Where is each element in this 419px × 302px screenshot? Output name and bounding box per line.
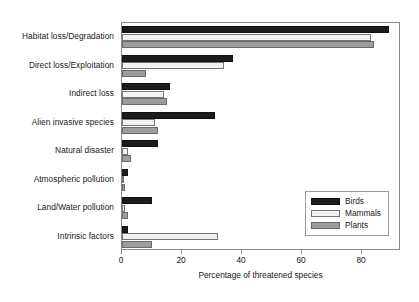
bar-mammals — [122, 148, 128, 155]
x-axis-tick-labels: 020406080 — [121, 255, 400, 267]
bar-birds — [122, 140, 158, 147]
bar-mammals — [122, 91, 164, 98]
bar-plants — [122, 127, 158, 134]
legend-swatch-birds-icon — [311, 198, 340, 205]
category-label: Indirect loss — [69, 89, 114, 98]
x-tick — [181, 250, 182, 254]
legend-item-birds: Birds — [311, 196, 383, 207]
legend-item-plants: Plants — [311, 220, 383, 231]
category-label: Land/Water pollution — [37, 203, 114, 212]
bar-plants — [122, 41, 374, 48]
x-tick-label: 20 — [176, 255, 185, 265]
legend-label-plants: Plants — [345, 221, 368, 230]
bar-plants — [122, 184, 125, 191]
bar-birds — [122, 55, 233, 62]
chart-legend: Birds Mammals Plants — [305, 191, 389, 236]
x-tick-label: 60 — [296, 255, 305, 265]
x-tick — [121, 250, 122, 254]
category-label: Natural disaster — [55, 146, 114, 155]
x-tick — [361, 250, 362, 254]
category-label: Alien invasive species — [32, 117, 114, 126]
x-tick-label: 0 — [119, 255, 124, 265]
bar-mammals — [122, 62, 224, 69]
bar-mammals — [122, 119, 155, 126]
bar-mammals — [122, 233, 218, 240]
legend-item-mammals: Mammals — [311, 208, 383, 219]
bar-birds — [122, 226, 128, 233]
bar-plants — [122, 70, 146, 77]
bar-birds — [122, 169, 128, 176]
legend-swatch-plants-icon — [311, 222, 340, 229]
bar-mammals — [122, 176, 124, 183]
bar-birds — [122, 83, 170, 90]
bar-plants — [122, 212, 128, 219]
x-tick-label: 40 — [236, 255, 245, 265]
x-tick-label: 80 — [356, 255, 365, 265]
x-tick — [241, 250, 242, 254]
bar-plants — [122, 241, 152, 248]
bar-birds — [122, 197, 152, 204]
legend-swatch-mammals-icon — [311, 210, 340, 217]
bar-plants — [122, 98, 167, 105]
bar-mammals — [122, 34, 371, 41]
legend-label-mammals: Mammals — [345, 209, 381, 218]
x-axis-title: Percentage of threatened species — [121, 270, 400, 281]
category-axis-labels: Habitat loss/DegradationDirect loss/Expl… — [0, 22, 118, 250]
x-tick — [301, 250, 302, 254]
category-label: Atmospheric pollution — [34, 174, 114, 183]
bar-chart: Habitat loss/DegradationDirect loss/Expl… — [0, 0, 419, 302]
legend-label-birds: Birds — [345, 197, 364, 206]
bar-plants — [122, 155, 131, 162]
category-label: Habitat loss/Degradation — [22, 32, 114, 41]
category-label: Direct loss/Exploitation — [29, 60, 114, 69]
category-label: Intrinsic factors — [57, 231, 114, 240]
bar-birds — [122, 26, 389, 33]
bar-birds — [122, 112, 215, 119]
bar-mammals — [122, 205, 125, 212]
